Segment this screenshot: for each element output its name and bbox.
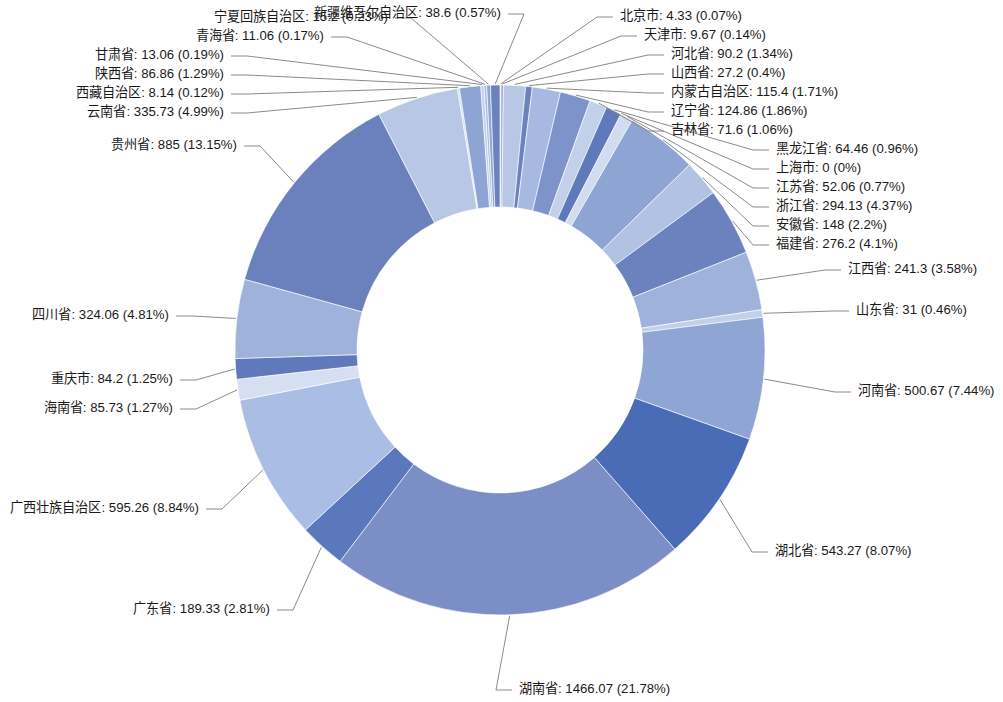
slice-label: 广西壮族自治区: 595.26 (8.84%) [10,500,199,515]
slice-label: 青海省: 11.06 (0.17%) [196,28,324,43]
slice-label: 湖北省: 543.27 (8.07%) [775,543,912,558]
leader-line [395,18,489,84]
slice-label: 福建省: 276.2 (4.1%) [776,236,898,251]
leader-line [231,87,458,94]
slice-label: 河南省: 500.67 (7.44%) [858,383,995,398]
slice-label: 海南省: 85.73 (1.27%) [44,400,173,415]
slice-label: 湖南省: 1466.07 (21.78%) [519,681,670,696]
pie-slices-group [235,85,765,615]
slice-label: 天津市: 9.67 (0.14%) [644,26,766,42]
slice-label: 贵州省: 885 (13.15%) [111,137,237,152]
slice-label: 安徽省: 148 (2.2%) [776,217,887,232]
slice-label: 江西省: 241.3 (3.58%) [848,261,977,276]
slice-label: 浙江省: 294.13 (4.37%) [776,198,913,213]
donut-chart: 北京市: 4.33 (0.07%)天津市: 9.67 (0.14%)河北省: 9… [0,0,1003,702]
leader-line [331,37,485,84]
leader-line [176,316,236,318]
leader-line [495,14,524,84]
donut-chart-canvas: 北京市: 4.33 (0.07%)天津市: 9.67 (0.14%)河北省: 9… [0,0,1003,702]
slice-label: 山东省: 31 (0.46%) [856,302,967,317]
leader-line [757,270,841,280]
slice-label: 北京市: 4.33 (0.07%) [620,7,742,23]
slice-label: 吉林省: 71.6 (1.06%) [671,122,793,137]
leader-line [231,75,470,86]
leader-line [180,390,237,409]
slice-label: 内蒙古自治区: 115.4 (1.71%) [671,84,838,99]
slice-label: 辽宁省: 124.86 (1.86%) [671,102,808,118]
leader-line [244,146,294,182]
leader-line [763,311,849,313]
leader-line [547,88,664,93]
leader-line [496,616,512,690]
leader-line [501,17,613,84]
slice-label: 西藏自治区: 8.14 (0.12%) [76,85,224,100]
slice-label: 重庆市: 84.2 (1.25%) [51,370,173,386]
leader-line [720,500,768,552]
slice-label: 上海市: 0 (0%) [776,159,861,175]
slice-label: 甘肃省: 13.06 (0.19%) [95,47,224,62]
leader-line [206,470,263,509]
slice-label: 黑龙江省: 64.46 (0.96%) [776,141,918,156]
slice-label: 陕西省: 86.86 (1.29%) [95,66,224,81]
leader-line [529,74,664,86]
leader-line [180,369,235,380]
slice-label: 云南省: 335.73 (4.99%) [87,104,224,119]
slice-label: 新疆维吾尔自治区: 38.6 (0.57%) [314,5,501,20]
slice-label: 四川省: 324.06 (4.81%) [32,307,169,322]
leader-line [764,379,851,392]
leader-line [277,547,321,610]
slice-label: 山西省: 27.2 (0.4%) [671,65,786,80]
slice-label: 广东省: 189.33 (2.81%) [133,601,270,616]
slice-label: 河北省: 90.2 (1.34%) [671,46,793,61]
slice-label: 江苏省: 52.06 (0.77%) [776,179,905,194]
